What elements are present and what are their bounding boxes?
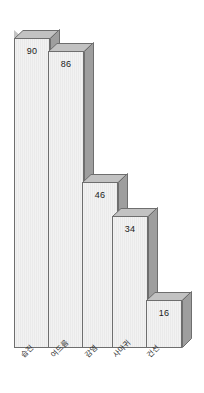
- bar-front-face: [48, 51, 84, 348]
- bar-front-face: [14, 38, 50, 348]
- bar-front-face: [112, 216, 148, 348]
- bar-chart: 90 86 46: [0, 0, 204, 393]
- bar-value-label: 16: [146, 308, 182, 318]
- bar-column: 34: [112, 207, 148, 348]
- bar-value-label: 34: [112, 224, 148, 234]
- bar-value-label: 90: [14, 46, 50, 56]
- bar-value-label: 46: [82, 190, 118, 200]
- plot-area: 90 86 46: [0, 0, 204, 348]
- bar-column: 16: [146, 291, 182, 348]
- bar-side-face-shape: [182, 291, 192, 348]
- bar-column: 90: [14, 30, 50, 348]
- x-axis-labels: 습진 여드름 감염 사마귀 건선: [0, 348, 204, 393]
- bar-column: 86: [48, 42, 84, 348]
- bar-value-label: 86: [48, 59, 84, 69]
